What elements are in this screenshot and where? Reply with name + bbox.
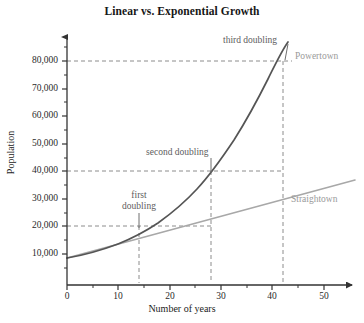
x-tick-label-0: 0 bbox=[52, 291, 82, 301]
guide-lines-horizontal bbox=[67, 61, 292, 226]
chart-plot-area bbox=[0, 0, 364, 323]
annotation-straightown: Straightown bbox=[291, 194, 337, 205]
x-tick-label-40: 40 bbox=[257, 291, 287, 301]
x-tick-label-20: 20 bbox=[155, 291, 185, 301]
x-tick-label-10: 10 bbox=[103, 291, 133, 301]
y-axis-title: Population bbox=[5, 113, 16, 193]
x-tick-label-30: 30 bbox=[206, 291, 236, 301]
annotation-third-doubling: third doubling bbox=[223, 35, 277, 46]
chart-container: Linear vs. Exponential Growth bbox=[0, 0, 364, 323]
y-tick-label-70000: 70,000 bbox=[6, 83, 58, 93]
x-axis-title: Number of years bbox=[0, 303, 364, 314]
annotation-first-doubling-line1: first bbox=[109, 190, 169, 201]
annotation-second-doubling: second doubling bbox=[146, 147, 209, 158]
annotation-first-doubling-line2: doubling bbox=[109, 201, 169, 212]
annotation-first-doubling: first doubling bbox=[109, 190, 169, 212]
y-tick-label-30000: 30,000 bbox=[6, 193, 58, 203]
y-tick-label-80000: 80,000 bbox=[6, 55, 58, 65]
annotation-powertown: Powertown bbox=[295, 51, 338, 62]
y-tick-label-20000: 20,000 bbox=[6, 220, 58, 230]
x-tick-label-50: 50 bbox=[309, 291, 339, 301]
y-tick-label-10000: 10,000 bbox=[6, 248, 58, 258]
